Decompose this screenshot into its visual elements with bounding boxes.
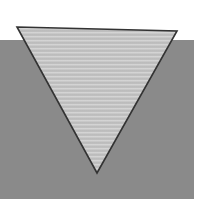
- figure-svg: [0, 0, 210, 199]
- figure-canvas: [0, 0, 210, 199]
